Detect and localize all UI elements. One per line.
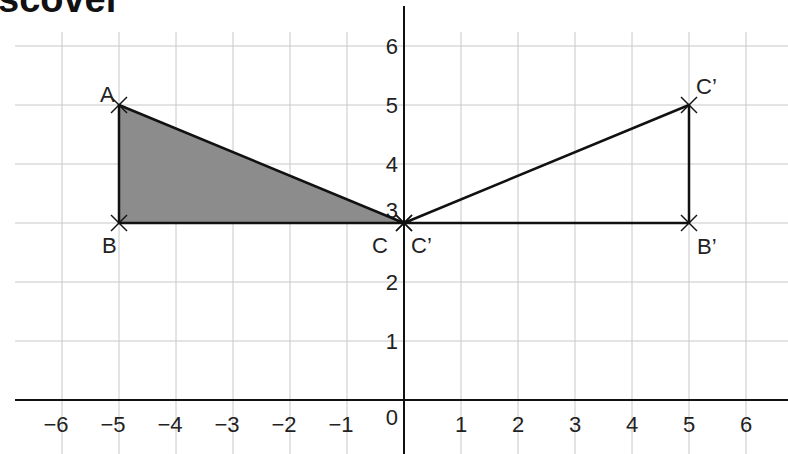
y-tick-label: 5 — [386, 93, 398, 118]
x-tick-label: 1 — [455, 412, 467, 437]
y-tick-label: 6 — [386, 34, 398, 59]
x-tick-label: 2 — [512, 412, 524, 437]
y-tick-label: 2 — [386, 270, 398, 295]
x-tick-label: −6 — [43, 412, 68, 437]
vertex-label-a: A — [100, 84, 115, 106]
x-tick-label: −1 — [328, 412, 353, 437]
vertex-label-c-prime-top: C’ — [696, 76, 717, 98]
y-tick-label: 4 — [386, 152, 398, 177]
origin-label: 0 — [386, 405, 398, 430]
coordinate-grid: −6−5−4−3−2−11234561234560 — [0, 0, 788, 454]
x-tick-label: −3 — [214, 412, 239, 437]
vertex-label-c-prime-origin: C’ — [411, 235, 432, 257]
x-tick-label: 4 — [626, 412, 638, 437]
vertex-label-b: B — [102, 235, 117, 257]
y-tick-label: 1 — [386, 329, 398, 354]
x-tick-label: 5 — [683, 412, 695, 437]
x-tick-label: −4 — [157, 412, 182, 437]
x-tick-label: 6 — [740, 412, 752, 437]
vertex-label-b-prime: B’ — [697, 236, 717, 258]
x-tick-label: −5 — [100, 412, 125, 437]
x-tick-label: 3 — [569, 412, 581, 437]
x-tick-label: −2 — [271, 412, 296, 437]
vertex-label-c: C — [372, 235, 388, 257]
